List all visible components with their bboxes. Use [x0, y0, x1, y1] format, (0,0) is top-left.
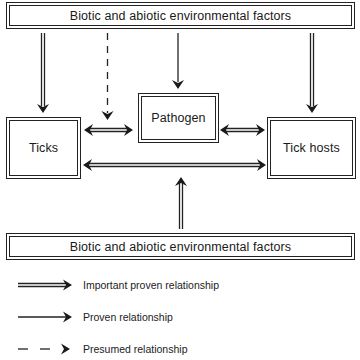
ticks-label: Ticks	[29, 141, 58, 155]
pathogen-label: Pathogen	[151, 111, 205, 125]
env-factors-bottom-box: Biotic and abiotic environmental factors	[6, 233, 355, 260]
env-factors-top-box: Biotic and abiotic environmental factors	[6, 2, 355, 29]
arrow-ticks-pathogen	[84, 124, 133, 136]
arrow-env-to-ticks	[37, 33, 49, 113]
env-factors-top-label: Biotic and abiotic environmental factors	[70, 9, 291, 23]
arrows-layer	[0, 0, 360, 360]
tick-hosts-box: Tick hosts	[267, 117, 356, 179]
env-factors-bottom-label: Biotic and abiotic environmental factors	[70, 240, 291, 254]
arrow-env-to-pathogen	[172, 33, 184, 89]
arrow-pathogen-tick-hosts	[220, 124, 265, 136]
arrow-ticks-tick-hosts	[83, 159, 266, 171]
arrow-env-to-ticks-pathogen-presumed	[102, 33, 114, 120]
legend-arrow-proven	[18, 312, 72, 323]
ticks-box: Ticks	[6, 117, 81, 179]
legend-label-important-proven: Important proven relationship	[83, 279, 219, 291]
legend-label-presumed: Presumed relationship	[83, 343, 187, 355]
pathogen-box: Pathogen	[138, 93, 219, 143]
arrow-env-to-tick-hosts	[306, 33, 318, 113]
legend-arrow-important-proven	[18, 280, 72, 291]
legend-label-proven: Proven relationship	[83, 311, 173, 323]
arrow-env-bottom-up	[175, 177, 187, 229]
legend-arrow-presumed	[18, 344, 70, 355]
tick-hosts-label: Tick hosts	[283, 141, 340, 155]
